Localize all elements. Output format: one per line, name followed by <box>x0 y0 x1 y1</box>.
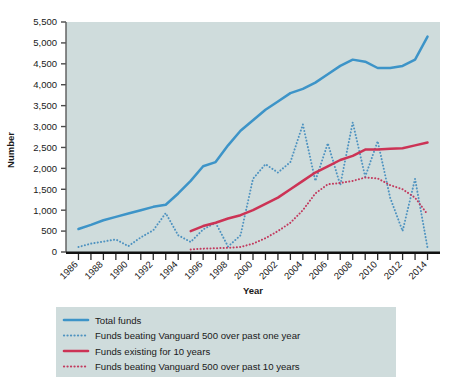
legend-label-1: Funds beating Vanguard 500 over past one… <box>95 330 301 341</box>
x-axis-title: Year <box>243 285 263 296</box>
legend-label-2: Funds existing for 10 years <box>95 346 210 357</box>
legend-label-3: Funds beating Vanguard 500 over past 10 … <box>95 361 300 372</box>
plot-area-background <box>66 22 440 252</box>
mutual-funds-line-chart: 05001,0001,5002,0002,5003,0003,5004,0004… <box>0 0 459 385</box>
y-tick-label: 5,000 <box>33 37 57 48</box>
y-tick-label: 4,500 <box>33 58 57 69</box>
y-tick-label: 2,500 <box>33 142 57 153</box>
y-tick-label: 0 <box>52 246 57 257</box>
y-tick-label: 3,000 <box>33 121 57 132</box>
y-tick-label: 3,500 <box>33 100 57 111</box>
y-tick-label: 500 <box>41 225 57 236</box>
legend-label-0: Total funds <box>95 315 142 326</box>
y-tick-label: 2,000 <box>33 163 57 174</box>
y-tick-label: 5,500 <box>33 16 57 27</box>
y-tick-label: 1,500 <box>33 184 57 195</box>
y-tick-label: 4,000 <box>33 79 57 90</box>
y-axis-title: Number <box>5 132 16 168</box>
y-tick-label: 1,000 <box>33 205 57 216</box>
